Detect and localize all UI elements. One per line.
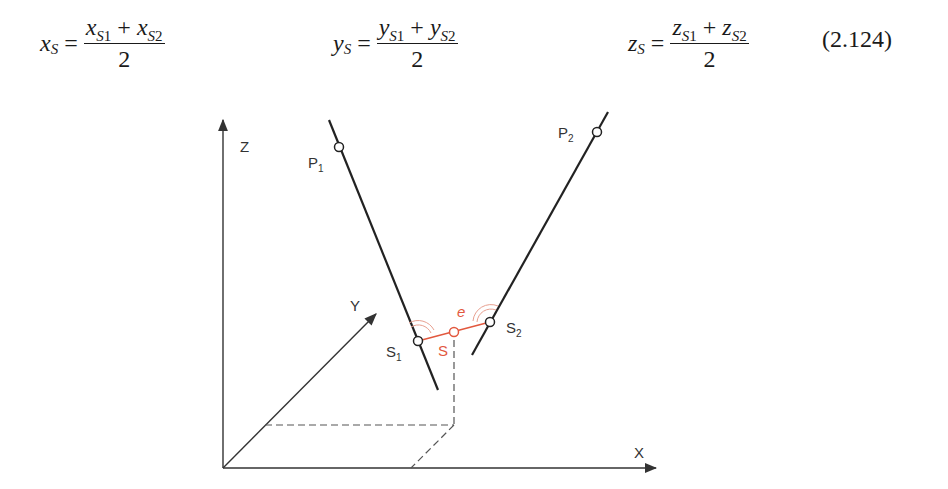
p1-label: P1 <box>308 154 324 174</box>
projection-diagonal <box>411 425 454 468</box>
p2-label: P2 <box>558 124 574 144</box>
s-midpoint-label: S <box>438 342 448 359</box>
x-axis-label: X <box>634 444 644 461</box>
s1-label: S1 <box>386 343 402 363</box>
point-s2 <box>486 318 495 327</box>
s2-label: S2 <box>506 319 522 339</box>
point-s1 <box>414 337 423 346</box>
y-axis-label: Y <box>350 297 360 314</box>
ray-1-line <box>329 120 438 390</box>
point-p2 <box>593 128 602 137</box>
figure-diagram: Z X Y P1 P2 S1 S2 S e <box>0 0 948 489</box>
point-s-midpoint <box>450 328 459 337</box>
point-p1 <box>335 143 344 152</box>
y-axis <box>223 314 376 468</box>
segment-e-label: e <box>457 303 465 320</box>
z-axis-label: Z <box>240 138 249 155</box>
